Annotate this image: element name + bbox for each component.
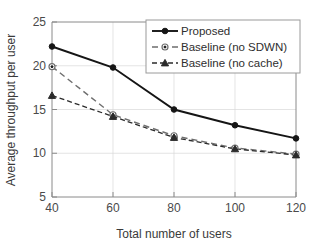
y-tick-label: 25 bbox=[33, 15, 47, 29]
x-axis-ticks: 406080100120 bbox=[45, 192, 306, 215]
y-axis-ticks: 510152025 bbox=[33, 15, 57, 204]
series-1-marker bbox=[51, 66, 53, 68]
series-0-marker bbox=[293, 136, 299, 142]
legend-label-0: Proposed bbox=[181, 25, 230, 37]
x-tick-label: 80 bbox=[167, 201, 181, 215]
x-tick-label: 100 bbox=[225, 201, 245, 215]
series-0-marker bbox=[110, 65, 116, 71]
series-0-marker bbox=[49, 44, 55, 50]
y-tick-label: 20 bbox=[33, 59, 47, 73]
chart-legend: ProposedBaseline (no SDWN)Baseline (no c… bbox=[146, 20, 300, 73]
legend-sample-marker-0 bbox=[162, 28, 168, 34]
legend-label-1: Baseline (no SDWN) bbox=[181, 41, 287, 53]
x-tick-label: 120 bbox=[286, 201, 306, 215]
x-tick-label: 40 bbox=[45, 201, 59, 215]
series-0-marker bbox=[232, 122, 238, 128]
y-tick-label: 10 bbox=[33, 146, 47, 160]
y-axis-title: Average throughput per user bbox=[4, 34, 18, 187]
legend-sample-marker-1 bbox=[164, 46, 166, 48]
x-tick-label: 60 bbox=[106, 201, 120, 215]
series-2-marker bbox=[48, 92, 55, 98]
chart-canvas: 510152025 406080100120 Total number of u… bbox=[0, 0, 316, 246]
y-tick-label: 15 bbox=[33, 103, 47, 117]
legend-label-2: Baseline (no cache) bbox=[181, 57, 283, 69]
series-0-marker bbox=[171, 107, 177, 113]
chart-figure: 510152025 406080100120 Total number of u… bbox=[0, 0, 316, 246]
x-axis-title: Total number of users bbox=[116, 227, 231, 241]
